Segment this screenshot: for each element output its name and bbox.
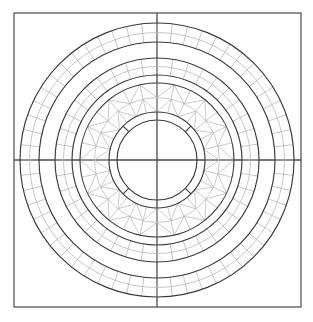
annular-mesh-diagram bbox=[0, 0, 313, 322]
mesh-figure-container bbox=[0, 0, 313, 322]
